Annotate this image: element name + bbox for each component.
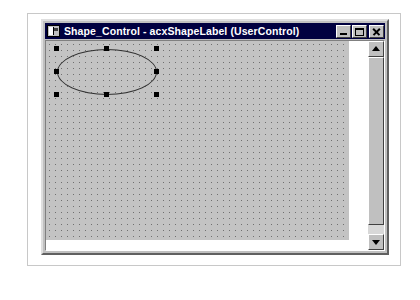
client-area: [45, 40, 385, 251]
designer-window: Shape_Control - acxShapeLabel (UserContr…: [41, 19, 389, 255]
handle-middle-left[interactable]: [54, 69, 59, 74]
minimize-button[interactable]: [336, 25, 351, 38]
handle-top-left[interactable]: [54, 46, 59, 51]
maximize-icon: [355, 28, 364, 36]
handle-middle-right[interactable]: [154, 69, 159, 74]
handle-top-center[interactable]: [104, 46, 109, 51]
minimize-icon: [340, 33, 347, 35]
maximize-button[interactable]: [352, 25, 367, 38]
page-panel: Shape_Control - acxShapeLabel (UserContr…: [27, 13, 401, 266]
scroll-up-button[interactable]: [368, 41, 384, 57]
shape-ellipse[interactable]: [57, 49, 157, 95]
usercontrol-icon: [47, 25, 60, 37]
handle-bottom-right[interactable]: [154, 92, 159, 97]
scroll-down-arrow-icon: [372, 240, 380, 245]
window-title: Shape_Control - acxShapeLabel (UserContr…: [64, 25, 336, 37]
vertical-scrollbar[interactable]: [368, 41, 384, 250]
handle-bottom-left[interactable]: [54, 92, 59, 97]
scroll-down-button[interactable]: [368, 234, 384, 250]
handle-bottom-center[interactable]: [104, 92, 109, 97]
scrollbar-track[interactable]: [368, 57, 384, 234]
caption-button-group: [336, 25, 384, 38]
handle-top-right[interactable]: [154, 46, 159, 51]
scroll-up-arrow-icon: [372, 46, 380, 51]
title-bar[interactable]: Shape_Control - acxShapeLabel (UserContr…: [45, 23, 385, 39]
close-button[interactable]: [369, 25, 384, 38]
usercontrol-design-grid[interactable]: [46, 41, 349, 240]
scroll-thumb[interactable]: [368, 57, 384, 225]
